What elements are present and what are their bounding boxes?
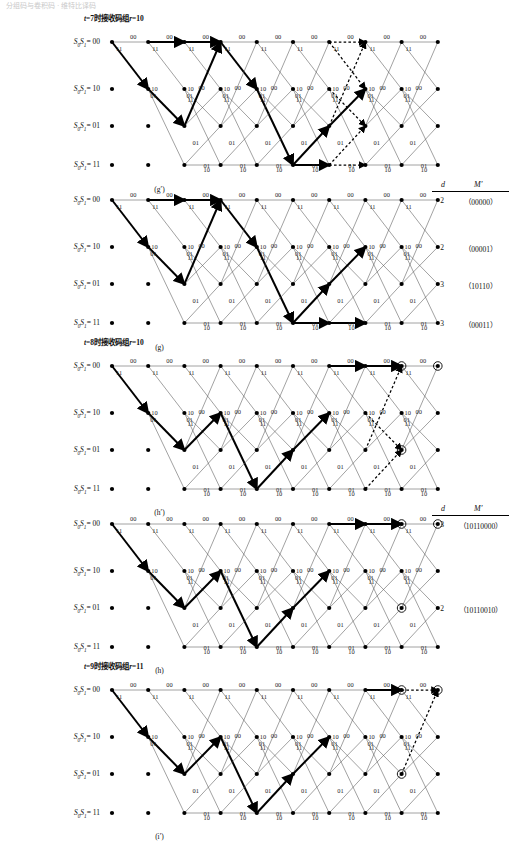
trellis-node bbox=[146, 411, 150, 415]
trellis-node bbox=[255, 198, 259, 202]
trellis-node bbox=[363, 245, 367, 249]
trellis-edge-label: 10 bbox=[368, 733, 374, 740]
trellis-node bbox=[219, 411, 223, 415]
dm-distance-value: 2 bbox=[436, 604, 448, 613]
trellis-edge-label: 00 bbox=[166, 357, 172, 364]
trellis-edge-label: 00 bbox=[130, 515, 136, 522]
trellis-node bbox=[146, 772, 150, 776]
trellis-node bbox=[363, 735, 367, 739]
trellis-edge-label: 00 bbox=[271, 732, 277, 739]
trellis-node bbox=[327, 87, 331, 91]
trellis-edge-label: 10 bbox=[204, 814, 210, 821]
trellis-edge-label: 01 bbox=[301, 463, 307, 470]
trellis-edge-label: 00 bbox=[384, 191, 390, 198]
trellis-edge bbox=[148, 571, 184, 647]
dm-header-m: M′ bbox=[474, 180, 482, 189]
trellis-node bbox=[110, 364, 114, 368]
trellis-node bbox=[291, 569, 295, 573]
trellis-node bbox=[363, 811, 367, 815]
trellis-edge-label: 10 bbox=[204, 166, 210, 173]
trellis-node bbox=[400, 487, 404, 491]
dm-header-d: d bbox=[441, 504, 445, 513]
trellis-edge-label: 10 bbox=[224, 243, 230, 250]
trellis-edge-label: 00 bbox=[203, 33, 209, 40]
trellis-node bbox=[255, 321, 259, 325]
dm-message-value: （10110010） bbox=[452, 604, 509, 615]
trellis-edge-label: 10 bbox=[276, 814, 282, 821]
trellis-edge-label: 11 bbox=[187, 420, 193, 427]
trellis-edge-label: 01 bbox=[229, 139, 235, 146]
trellis-edge-label: 00 bbox=[203, 515, 209, 522]
trellis-edge-label: 00 bbox=[347, 357, 353, 364]
dm-distance-value: 3 bbox=[436, 280, 448, 289]
dm-distance-value: 2 bbox=[436, 243, 448, 252]
trellis-edge-label: 10 bbox=[421, 648, 427, 655]
trellis-edge-label: 11 bbox=[369, 203, 375, 210]
trellis-edge-label: 01 bbox=[374, 297, 380, 304]
trellis-edge-label: 00 bbox=[311, 357, 317, 364]
trellis-edge-label: 00 bbox=[166, 515, 172, 522]
trellis-node bbox=[400, 124, 404, 128]
trellis-node bbox=[327, 448, 331, 452]
trellis-edge-label: 11 bbox=[332, 578, 338, 585]
trellis-edge-label: 10 bbox=[312, 814, 318, 821]
trellis-edge-label: 11 bbox=[405, 96, 411, 103]
trellis-edge-label: 00 bbox=[347, 515, 353, 522]
trellis-node bbox=[182, 811, 186, 815]
trellis-edge-label: 01 bbox=[193, 621, 199, 628]
trellis-edge-label: 01 bbox=[337, 297, 343, 304]
trellis-edge bbox=[365, 284, 401, 323]
trellis-edge bbox=[184, 774, 220, 813]
trellis-edge-label: 00 bbox=[379, 84, 385, 91]
trellis-edge-label: 10 bbox=[421, 166, 427, 173]
trellis-node bbox=[436, 124, 440, 128]
trellis-node bbox=[219, 40, 223, 44]
trellis-node bbox=[327, 606, 331, 610]
trellis-edge-label: 00 bbox=[311, 33, 317, 40]
trellis-edge-label: 01 bbox=[265, 139, 271, 146]
trellis-node bbox=[146, 522, 150, 526]
trellis-edge-label: 11 bbox=[333, 45, 339, 52]
trellis-node bbox=[182, 411, 186, 415]
trellis-edge-label: 10 bbox=[421, 814, 427, 821]
trellis-node bbox=[327, 282, 331, 286]
trellis-node bbox=[291, 321, 295, 325]
trellis-node-highlighted bbox=[397, 770, 406, 779]
trellis-edge-label: 00 bbox=[130, 357, 136, 364]
trellis-edge-label: 00 bbox=[347, 33, 353, 40]
trellis-edge-label: 10 bbox=[276, 648, 282, 655]
trellis-edge-label: 11 bbox=[406, 693, 412, 700]
trellis-node bbox=[110, 735, 114, 739]
trellis-node bbox=[182, 163, 186, 167]
trellis-edge-label: 00 bbox=[343, 242, 349, 249]
trellis-edge-label: 11 bbox=[333, 203, 339, 210]
dm-message-value: （10110000） bbox=[452, 520, 509, 531]
trellis-node bbox=[291, 448, 295, 452]
trellis-edge-label: 00 bbox=[379, 242, 385, 249]
trellis-edge-label: 11 bbox=[152, 203, 158, 210]
dm-header-rule bbox=[432, 191, 509, 192]
trellis-edge-label: 10 bbox=[187, 567, 193, 574]
trellis-node bbox=[182, 198, 186, 202]
trellis-node bbox=[182, 448, 186, 452]
trellis-edge-label: 10 bbox=[224, 409, 230, 416]
trellis-node bbox=[219, 688, 223, 692]
trellis-edge-label: 00 bbox=[203, 357, 209, 364]
trellis-edge-label: 10 bbox=[312, 324, 318, 331]
dm-message-value: （00011） bbox=[452, 319, 509, 330]
trellis-edge-label: 11 bbox=[116, 369, 122, 376]
trellis-edge-label: 10 bbox=[204, 648, 210, 655]
trellis-edge-label: 10 bbox=[348, 166, 354, 173]
trellis-node bbox=[146, 688, 150, 692]
trellis-node bbox=[363, 411, 367, 415]
trellis-edge-label: 10 bbox=[224, 733, 230, 740]
trellis-edge-label: 11 bbox=[116, 45, 122, 52]
trellis-edge-label: 00 bbox=[235, 732, 241, 739]
trellis-node bbox=[291, 124, 295, 128]
trellis-edge-label: 00 bbox=[271, 408, 277, 415]
trellis-edge-label: 11 bbox=[224, 744, 230, 751]
trellis-edge-label: 10 bbox=[296, 243, 302, 250]
trellis-node bbox=[400, 163, 404, 167]
trellis-edge-label: 11 bbox=[187, 254, 193, 261]
trellis-edge-label: 00 bbox=[275, 357, 281, 364]
